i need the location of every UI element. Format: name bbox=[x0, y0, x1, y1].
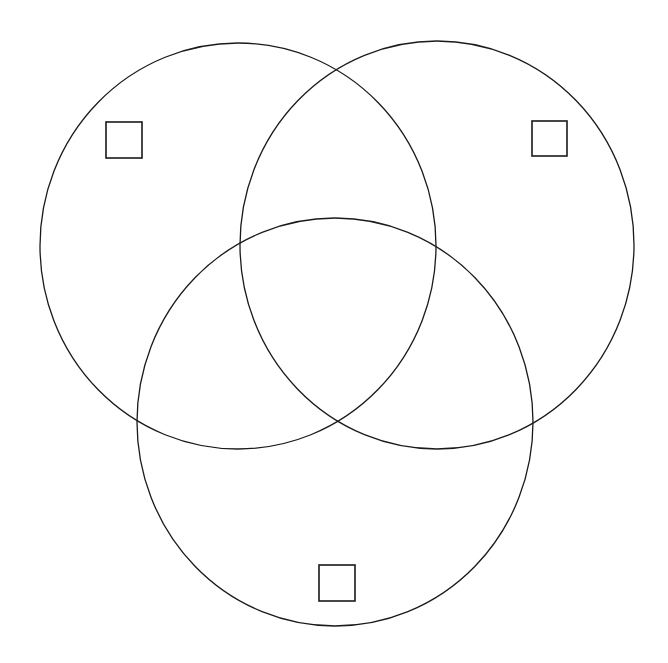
circle-right bbox=[240, 41, 634, 449]
circle-left bbox=[40, 43, 436, 449]
bottom-set-checkbox[interactable] bbox=[319, 565, 355, 601]
venn-diagram-canvas bbox=[0, 0, 668, 663]
left-set-checkbox[interactable] bbox=[106, 122, 142, 158]
right-set-checkbox[interactable] bbox=[532, 121, 567, 156]
venn-diagram bbox=[0, 0, 668, 663]
